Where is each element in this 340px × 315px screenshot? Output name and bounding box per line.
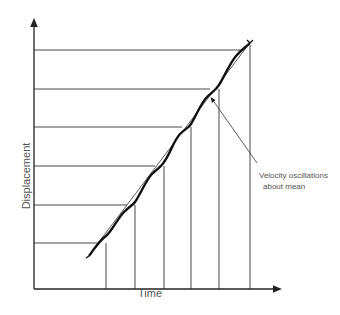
- time-marks: [106, 45, 250, 289]
- displacement-levels: [34, 50, 244, 243]
- x-axis-label: Time: [138, 287, 162, 299]
- annotation-text: Velocity oscillations about mean: [259, 170, 339, 192]
- annotation-line-2: about mean: [259, 181, 339, 192]
- y-axis-label: Displacement: [20, 136, 32, 216]
- annotation-line-1: Velocity oscillations: [259, 170, 339, 181]
- displacement-time-diagram: [0, 0, 340, 315]
